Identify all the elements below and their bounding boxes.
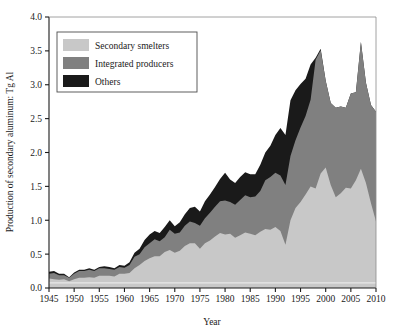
y-axis-title: Production of secondary aluminum: Tg Al [5,71,15,232]
x-axis-title: Year [203,317,221,327]
legend[interactable]: Secondary smeltersIntegrated producersOt… [57,32,197,92]
legend-label: Others [95,77,121,87]
x-tick-label: 1985 [241,294,260,304]
y-tick-label: 1.5 [30,182,42,192]
y-tick-label: 0.5 [30,250,42,260]
legend-label: Integrated producers [95,59,174,69]
chart-figure: 0.00.51.01.52.02.53.03.54.0 194519501955… [0,0,394,332]
x-tick-label: 2005 [341,294,360,304]
legend-label: Secondary smelters [95,41,169,51]
y-tick-label: 2.5 [30,114,42,124]
x-tick-label: 1960 [115,294,134,304]
x-tick-label: 1965 [140,294,159,304]
x-tick-label: 2010 [367,294,386,304]
y-tick-label: 2.0 [30,148,42,158]
y-tick-label: 4.0 [30,12,42,22]
x-tick-label: 1975 [190,294,209,304]
x-tick-label: 1995 [291,294,310,304]
y-tick-label: 3.5 [30,46,42,56]
x-tick-label: 1970 [165,294,184,304]
y-tick-label: 0.0 [30,283,42,293]
x-tick-label: 1950 [65,294,84,304]
y-tick-label: 3.0 [30,80,42,90]
area-chart: 0.00.51.01.52.02.53.03.54.0 194519501955… [0,0,394,332]
x-tick-label: 1945 [40,294,59,304]
x-tick-label: 2000 [316,294,335,304]
legend-swatch [63,57,89,69]
legend-swatch [63,75,89,87]
y-tick-label: 1.0 [30,216,42,226]
x-tick-label: 1955 [90,294,109,304]
x-tick-label: 1990 [266,294,285,304]
x-tick-label: 1980 [216,294,235,304]
legend-swatch [63,39,89,51]
